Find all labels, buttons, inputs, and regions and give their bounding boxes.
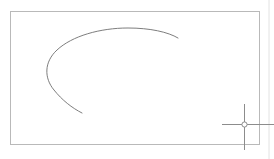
app-root: Drawing Canvas Drawing frame Crosshair c… [0, 0, 274, 159]
canvas-background [0, 0, 274, 159]
snap-marker-icon [242, 122, 247, 127]
drawing-canvas[interactable] [0, 0, 274, 159]
